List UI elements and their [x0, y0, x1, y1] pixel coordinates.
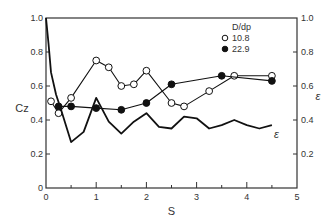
series-line-10.8 — [51, 61, 272, 114]
filled-circle-marker — [168, 81, 175, 88]
legend-marker — [222, 35, 228, 41]
open-circle-marker — [118, 83, 125, 90]
y-tick-label: 0.4 — [30, 115, 43, 125]
y-right-tick-label: 0.2 — [301, 149, 314, 159]
y-right-tick-label: 1.0 — [301, 13, 314, 23]
legend-label: 22.9 — [232, 44, 250, 54]
y-right-tick-label: 0.8 — [301, 47, 314, 57]
epsilon-annotation: ε — [274, 128, 279, 140]
series-line-22.9 — [59, 76, 272, 110]
y-tick-label: 0 — [38, 183, 43, 193]
open-circle-marker — [143, 67, 150, 74]
filled-circle-marker — [218, 72, 225, 79]
x-tick-label: 0 — [43, 192, 48, 202]
open-circle-marker — [105, 64, 112, 71]
open-circle-marker — [181, 103, 188, 110]
filled-circle-marker — [118, 106, 125, 113]
legend-label: 10.8 — [232, 33, 250, 43]
x-tick-label: 1 — [94, 192, 99, 202]
open-circle-marker — [168, 100, 175, 107]
filled-circle-marker — [269, 78, 276, 85]
x-tick-label: 5 — [294, 192, 299, 202]
x-axis-label: S — [168, 205, 175, 217]
y-tick-label: 1.0 — [30, 13, 43, 23]
y-tick-label: 0.2 — [30, 149, 43, 159]
y-tick-label: 0.6 — [30, 81, 43, 91]
filled-circle-marker — [143, 100, 150, 107]
y-axis-label: Cz — [15, 102, 28, 114]
y-right-tick-label: 0.6 — [301, 81, 314, 91]
open-circle-marker — [231, 72, 238, 79]
y-right-axis-label: ε — [316, 90, 321, 102]
x-tick-label: 4 — [244, 192, 249, 202]
open-circle-marker — [48, 98, 55, 105]
chart: 01234500.20.40.60.81.00.20.40.60.81.0 ε … — [0, 0, 332, 224]
legend-title: D/dp — [232, 22, 251, 32]
open-circle-marker — [93, 57, 100, 64]
y-tick-label: 0.8 — [30, 47, 43, 57]
x-tick-label: 3 — [194, 192, 199, 202]
filled-circle-marker — [68, 103, 75, 110]
legend: D/dp10.822.9 — [222, 22, 251, 54]
x-tick-label: 2 — [144, 192, 149, 202]
legend-marker — [222, 46, 228, 52]
y-right-tick-label: 0.4 — [301, 115, 314, 125]
open-circle-marker — [206, 88, 213, 95]
open-circle-marker — [68, 95, 75, 102]
open-circle-marker — [130, 81, 137, 88]
